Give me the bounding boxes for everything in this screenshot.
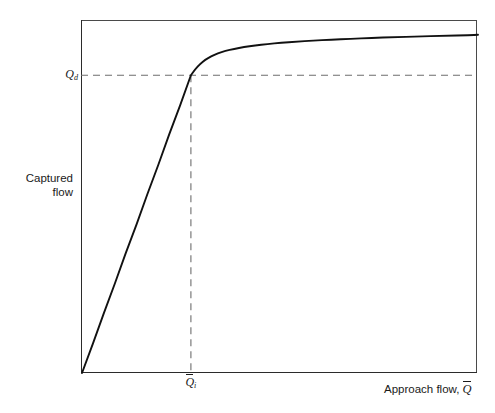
- x-axis-title-symbol: Q: [459, 382, 471, 396]
- figure-root: Captured flow Approach flow, Q Qd Qi: [0, 0, 495, 413]
- x-axis-line: [81, 372, 477, 373]
- qd-base-symbol: Q: [65, 67, 74, 81]
- plot-frame: [81, 20, 477, 373]
- y-axis-title: Captured flow: [0, 171, 73, 199]
- y-axis-line: [81, 20, 82, 373]
- qi-base-symbol: Q: [185, 374, 194, 390]
- q-bar-symbol: Q: [463, 381, 472, 396]
- y-tick-label-qd: Qd: [56, 67, 78, 82]
- x-axis-title-text: Approach flow,: [384, 383, 459, 395]
- y-axis-title-line-1: Captured: [0, 171, 73, 185]
- qd-subscript: d: [74, 74, 78, 83]
- x-tick-label-qi: Qi: [174, 374, 208, 390]
- x-axis-title: Approach flow, Q: [384, 381, 472, 396]
- y-axis-title-line-2: flow: [0, 185, 73, 199]
- qi-subscript: i: [194, 381, 196, 390]
